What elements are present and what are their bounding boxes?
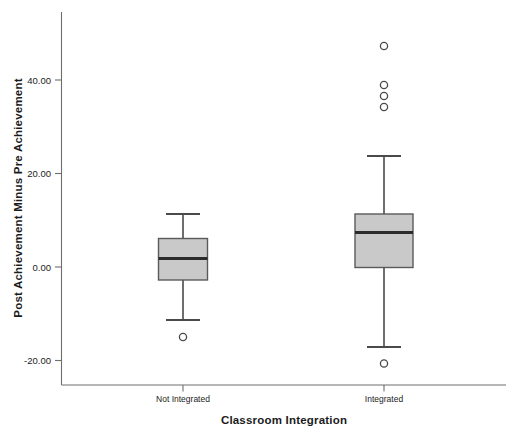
y-tick-label-40: 40.00 <box>27 75 51 86</box>
y-axis: 40.00 20.00 0.00 -20.00 Post Achievement… <box>12 12 62 385</box>
outlier-point <box>380 81 387 88</box>
y-tick-label-20: 20.00 <box>27 168 51 179</box>
boxplot-canvas: 40.00 20.00 0.00 -20.00 Post Achievement… <box>0 0 521 433</box>
outlier-point <box>380 360 387 367</box>
outlier-point <box>380 103 387 110</box>
outlier-point <box>179 333 186 340</box>
outlier-point <box>380 92 387 99</box>
y-tick-label-0: 0.00 <box>33 262 52 273</box>
x-tick-label-not-integrated: Not Integrated <box>156 394 210 404</box>
box-group-integrated <box>355 42 413 367</box>
y-axis-title: Post Achievement Minus Pre Achievement <box>12 78 24 317</box>
x-axis: Not Integrated Integrated Classroom Inte… <box>62 385 507 426</box>
box-group-not-integrated <box>159 214 208 341</box>
box-integrated <box>355 214 413 268</box>
x-axis-title: Classroom Integration <box>221 414 347 426</box>
outlier-point <box>380 42 387 49</box>
boxplot-figure: 40.00 20.00 0.00 -20.00 Post Achievement… <box>0 0 521 433</box>
x-tick-label-integrated: Integrated <box>365 394 404 404</box>
y-tick-label-neg20: -20.00 <box>24 355 51 366</box>
